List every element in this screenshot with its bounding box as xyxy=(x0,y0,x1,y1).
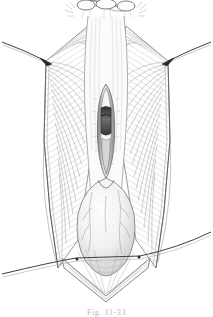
figure-plate: Fig. 11-33 xyxy=(0,0,213,317)
exposed-lumen xyxy=(101,107,111,136)
figure-caption: Fig. 11-33 xyxy=(0,306,213,317)
anatomical-illustration xyxy=(0,0,213,317)
